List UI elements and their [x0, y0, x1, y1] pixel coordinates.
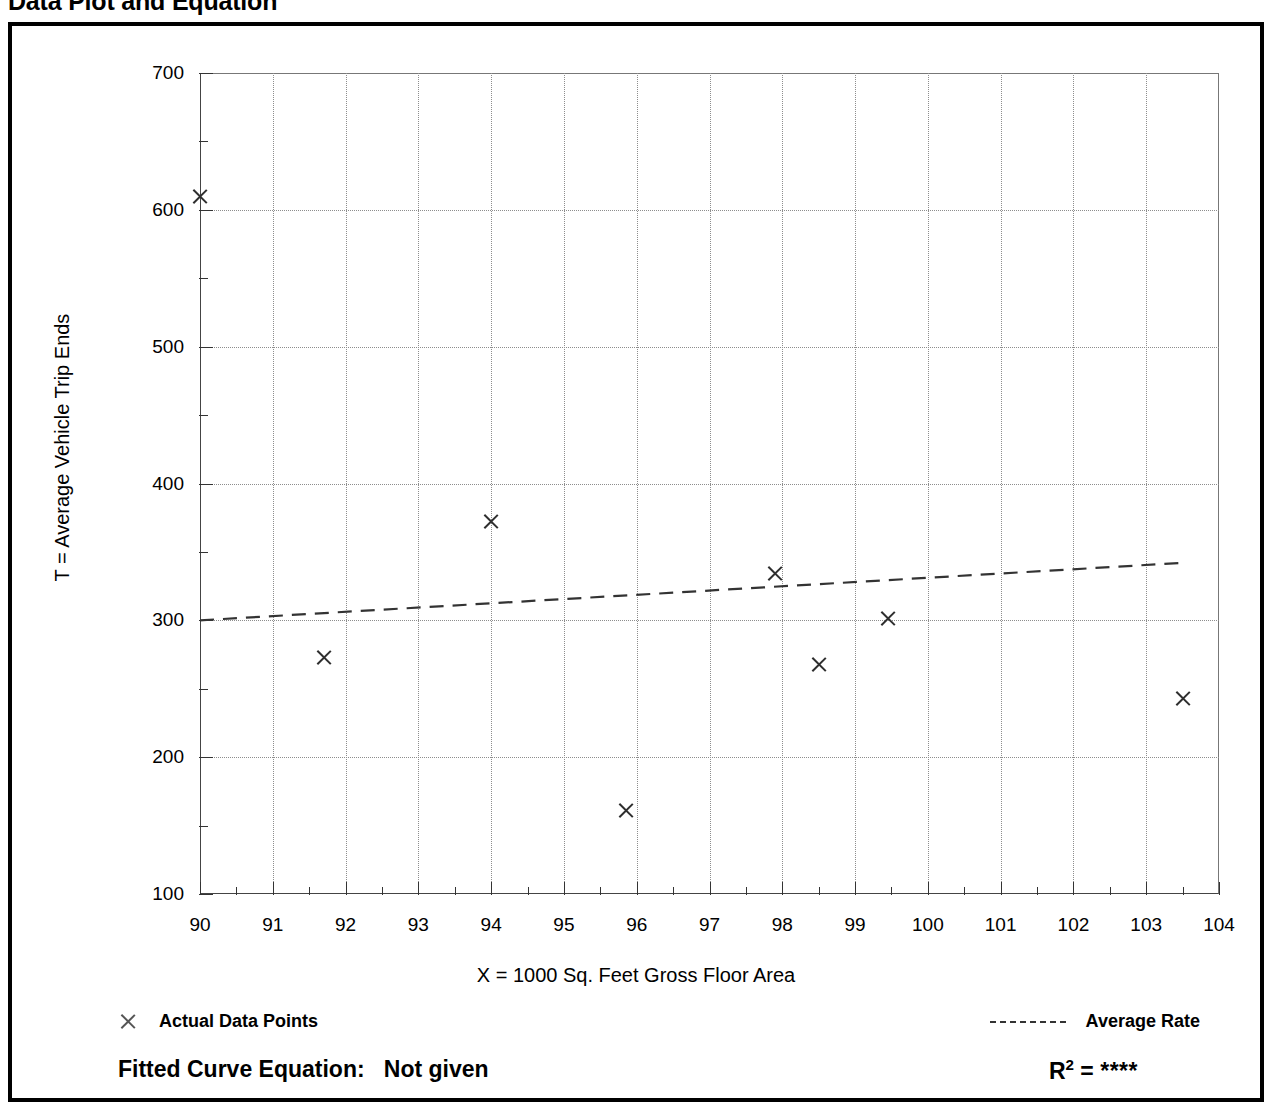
legend-label-actual-data-points: Actual Data Points	[159, 1011, 318, 1032]
y-tick-label: 500	[114, 336, 184, 358]
fitted-equation-label: Fitted Curve Equation:	[118, 1056, 365, 1082]
data-point-marker	[314, 648, 333, 667]
data-point-marker	[766, 564, 785, 583]
data-point-marker	[1173, 689, 1192, 708]
x-tick-label: 91	[262, 914, 283, 936]
x-tick-label: 98	[772, 914, 793, 936]
y-tick-label: 200	[114, 746, 184, 768]
data-point-marker	[809, 655, 828, 674]
x-tick-label: 96	[626, 914, 647, 936]
x-axis-title: X = 1000 Sq. Feet Gross Floor Area	[12, 964, 1260, 987]
x-tick	[1219, 882, 1220, 895]
y-tick-label: 700	[114, 62, 184, 84]
x-tick-label: 93	[408, 914, 429, 936]
x-tick-label: 102	[1058, 914, 1090, 936]
data-point-marker	[191, 187, 210, 206]
dashed-line-icon	[990, 1021, 1066, 1023]
y-tick-label: 300	[114, 609, 184, 631]
legend-item-actual-data-points: Actual Data Points	[118, 1011, 318, 1032]
x-tick-label: 94	[481, 914, 502, 936]
x-tick-label: 97	[699, 914, 720, 936]
data-point-marker	[616, 801, 635, 820]
x-tick-label: 90	[189, 914, 210, 936]
r-squared-value: R2 = ****	[1049, 1056, 1138, 1085]
y-tick-label: 600	[114, 199, 184, 221]
x-tick-label: 95	[553, 914, 574, 936]
r-squared-label: R	[1049, 1058, 1066, 1084]
page-title: Data Plot and Equation	[8, 0, 277, 16]
r-squared-equals: =	[1080, 1058, 1093, 1084]
r-squared-exponent: 2	[1066, 1056, 1074, 1073]
y-tick	[199, 894, 213, 895]
x-tick-label: 104	[1203, 914, 1235, 936]
plot-area	[200, 73, 1219, 894]
legend: Actual Data Points Average Rate	[12, 1011, 1260, 1051]
legend-item-average-rate: Average Rate	[990, 1011, 1200, 1032]
x-tick-label: 99	[844, 914, 865, 936]
equation-row: Fitted Curve Equation: Not given R2 = **…	[12, 1056, 1260, 1100]
chart-panel: 90919293949596979899100101102103104 1002…	[8, 22, 1264, 1102]
fitted-equation-value: Not given	[384, 1056, 489, 1082]
fitted-curve-equation: Fitted Curve Equation: Not given	[118, 1056, 489, 1083]
average-rate-trend-line	[200, 73, 1219, 894]
y-tick-label: 400	[114, 473, 184, 495]
r-squared-stars: ****	[1100, 1058, 1138, 1084]
data-point-marker	[482, 512, 501, 531]
x-tick-label: 101	[985, 914, 1017, 936]
x-tick-label: 92	[335, 914, 356, 936]
x-tick-label: 100	[912, 914, 944, 936]
data-point-marker	[878, 609, 897, 628]
legend-label-average-rate: Average Rate	[1086, 1011, 1200, 1032]
x-tick-label: 103	[1130, 914, 1162, 936]
y-tick-label: 100	[114, 883, 184, 905]
x-marker-icon	[118, 1012, 137, 1031]
y-axis-title: T = Average Vehicle Trip Ends	[51, 168, 74, 728]
